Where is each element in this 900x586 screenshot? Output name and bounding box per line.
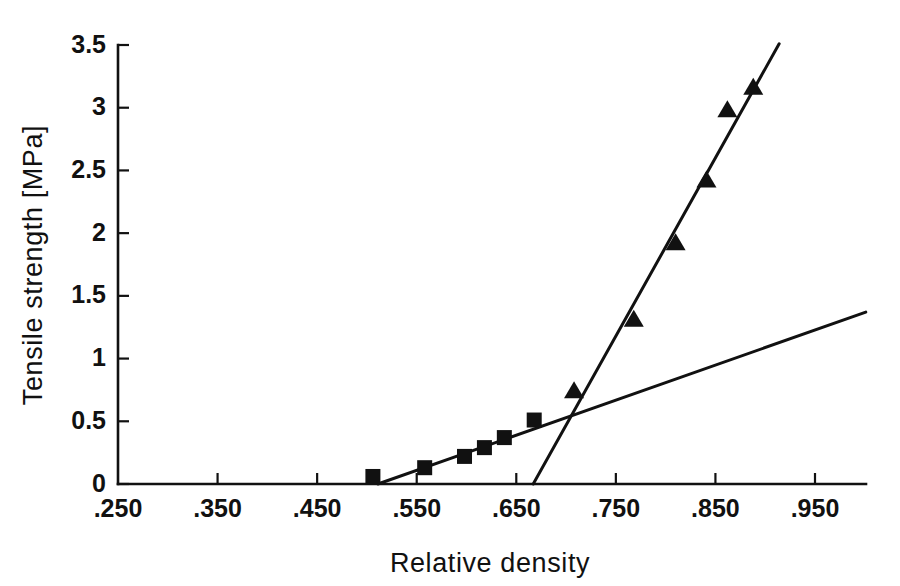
x-tick-label: .650: [492, 494, 541, 522]
data-point-square: [417, 460, 432, 475]
y-tick-label: 2.5: [71, 155, 106, 183]
y-tick-label: 1: [92, 343, 106, 371]
y-tick-label: 0: [92, 469, 106, 497]
data-point-square: [497, 430, 512, 445]
x-tick-label: .850: [691, 494, 740, 522]
data-point-square: [457, 449, 472, 464]
x-tick-label: .550: [392, 494, 441, 522]
data-point-square: [527, 413, 542, 428]
y-axis-title: Tensile strength [MPa]: [18, 125, 48, 405]
x-axis-title: Relative density: [390, 548, 590, 578]
x-tick-label: .450: [293, 494, 342, 522]
tensile-strength-vs-relative-density-chart: 00.511.522.533.5 .250.350.450.550.650.75…: [0, 0, 900, 586]
y-tick-label: 1.5: [71, 280, 106, 308]
x-tick-label: .250: [94, 494, 143, 522]
y-tick-label: 3.5: [71, 30, 106, 58]
y-tick-label: 0.5: [71, 406, 106, 434]
data-point-square: [477, 440, 492, 455]
data-point-square: [365, 469, 380, 484]
y-tick-label: 2: [92, 218, 106, 246]
x-tick-label: .350: [193, 494, 242, 522]
x-tick-label: .750: [592, 494, 641, 522]
x-tick-label: .950: [791, 494, 840, 522]
y-tick-label: 3: [92, 92, 106, 120]
